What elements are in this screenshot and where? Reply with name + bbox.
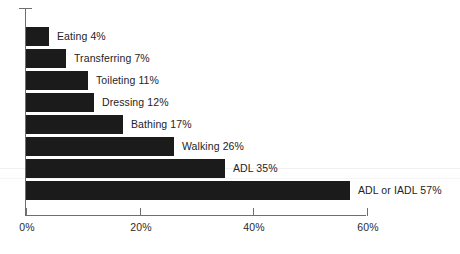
bar-chart: Eating 4%Transferring 7%Toileting 11%Dre…	[0, 0, 460, 254]
bar[interactable]	[26, 71, 88, 90]
x-axis-tick	[26, 208, 27, 216]
bar-value-label: Walking 26%	[182, 139, 244, 154]
bar[interactable]	[26, 159, 225, 178]
x-axis-tick-label: 20%	[130, 221, 152, 233]
bar[interactable]	[26, 181, 350, 200]
bar[interactable]	[26, 137, 174, 156]
bar[interactable]	[26, 115, 123, 134]
bar[interactable]	[26, 49, 66, 68]
bar-value-label: Toileting 11%	[96, 73, 159, 88]
bar-value-label: Bathing 17%	[131, 117, 192, 132]
bar-value-label: Transferring 7%	[74, 51, 150, 66]
bar-value-label: ADL or IADL 57%	[358, 183, 442, 198]
bar-value-label: ADL 35%	[233, 161, 278, 176]
x-axis-tick-label: 0%	[19, 221, 35, 233]
bar[interactable]	[26, 93, 94, 112]
bar-value-label: Dressing 12%	[102, 95, 169, 110]
x-axis-line	[25, 215, 366, 216]
x-axis-tick-label: 40%	[243, 221, 265, 233]
x-axis-tick	[253, 208, 254, 216]
x-axis-tick-label: 60%	[357, 221, 379, 233]
x-axis-tick	[140, 208, 141, 216]
bar[interactable]	[26, 27, 49, 46]
x-axis-tick	[367, 208, 368, 216]
bar-value-label: Eating 4%	[57, 29, 106, 44]
